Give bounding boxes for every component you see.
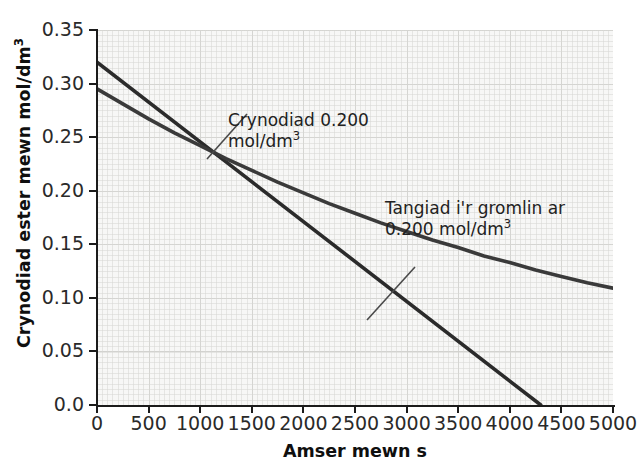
annotation-tangent-superscript: 3	[504, 217, 511, 231]
y-axis-title-superscript: 3	[12, 38, 26, 46]
annotation-concentration-superscript: 3	[293, 129, 300, 143]
x-tick-label: 5000	[583, 414, 637, 433]
annotation-concentration: Crynodiad 0.200 mol/dm3	[228, 110, 369, 152]
x-axis-title: Amser mewn s	[97, 441, 613, 461]
y-tick	[89, 29, 96, 31]
y-tick	[89, 404, 96, 406]
annotation-tangent-text: Tangiad i'r gromlin ar 0.200 mol/dm	[385, 198, 565, 239]
y-tick	[89, 83, 96, 85]
annotation-tangent: Tangiad i'r gromlin ar 0.200 mol/dm3	[385, 198, 565, 240]
y-tick	[89, 297, 96, 299]
y-tick	[89, 350, 96, 352]
y-tick	[89, 136, 96, 138]
chart-container: 0.00.050.100.150.200.250.300.35 05001000…	[0, 0, 637, 470]
y-tick	[89, 243, 96, 245]
y-axis-title-text: Crynodiad ester mewn mol/dm	[14, 46, 34, 348]
y-tick	[89, 190, 96, 192]
y-axis-line	[96, 29, 98, 407]
y-axis-title: Crynodiad ester mewn mol/dm3	[14, 23, 34, 363]
y-tick-label: 0.0	[22, 395, 84, 414]
